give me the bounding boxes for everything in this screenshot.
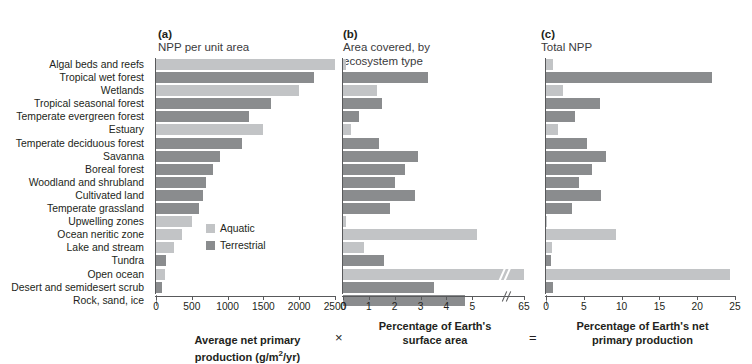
bar-a bbox=[156, 111, 249, 122]
axis-tick bbox=[395, 296, 396, 300]
bar-row bbox=[546, 281, 735, 294]
bar-row bbox=[343, 241, 524, 254]
bar-b bbox=[343, 216, 346, 227]
bar-b bbox=[343, 229, 477, 240]
category-label: Rock, sand, ice bbox=[0, 294, 148, 307]
bar-row bbox=[546, 215, 735, 228]
bar-b bbox=[343, 151, 418, 162]
panel-c-bars bbox=[546, 58, 735, 294]
legend: AquaticTerrestrial bbox=[206, 221, 266, 255]
category-label: Desert and semidesert scrub bbox=[0, 281, 148, 294]
bar-row bbox=[343, 97, 524, 110]
bar-row bbox=[156, 254, 335, 267]
panel-a-plot bbox=[155, 58, 335, 294]
axis-tick-label: 1000 bbox=[216, 301, 239, 312]
legend-item: Aquatic bbox=[206, 221, 266, 235]
bar-row bbox=[343, 189, 524, 202]
bar-c bbox=[546, 59, 553, 70]
bar-a bbox=[156, 177, 206, 188]
bar-row bbox=[546, 163, 735, 176]
category-label: Lake and stream bbox=[0, 241, 148, 254]
axis-tick-label: 5 bbox=[581, 301, 587, 312]
axis-tick bbox=[299, 296, 300, 300]
axis-tick bbox=[192, 296, 193, 300]
bar-a bbox=[156, 59, 335, 70]
category-label: Boreal forest bbox=[0, 163, 148, 176]
panel-c-title-text: Total NPP bbox=[541, 41, 592, 53]
bar-row bbox=[343, 150, 524, 163]
axis-break-icon bbox=[501, 291, 515, 302]
axis-tick-label: 10 bbox=[616, 301, 627, 312]
bar-b bbox=[343, 177, 395, 188]
bar-a bbox=[156, 98, 271, 109]
bar-row bbox=[156, 123, 335, 136]
bar-row bbox=[343, 268, 524, 281]
axis-tick bbox=[584, 296, 585, 300]
bar-row bbox=[156, 97, 335, 110]
bar-row bbox=[156, 137, 335, 150]
bar-row bbox=[343, 215, 524, 228]
bar-row bbox=[156, 71, 335, 84]
bar-b bbox=[343, 242, 364, 253]
bar-row bbox=[546, 176, 735, 189]
bar-b bbox=[343, 190, 415, 201]
bar-a bbox=[156, 203, 199, 214]
axis-tick-label: 15 bbox=[654, 301, 665, 312]
bar-row bbox=[343, 176, 524, 189]
axis-tick bbox=[697, 296, 698, 300]
panel-a-tag: (a) bbox=[158, 28, 172, 40]
panel-c-tag: (c) bbox=[541, 28, 555, 40]
bar-a bbox=[156, 269, 165, 280]
axis-tick bbox=[622, 296, 623, 300]
category-label: Woodland and shrubland bbox=[0, 176, 148, 189]
category-label: Tundra bbox=[0, 254, 148, 267]
category-label: Algal beds and reefs bbox=[0, 58, 148, 71]
axis-tick-label: 65 bbox=[518, 301, 529, 312]
bar-row bbox=[546, 71, 735, 84]
axis-tick-label: 0 bbox=[543, 301, 549, 312]
bar-c bbox=[546, 124, 558, 135]
bar-row bbox=[343, 110, 524, 123]
axis-tick bbox=[546, 296, 547, 300]
bar-row bbox=[156, 281, 335, 294]
bar-row bbox=[343, 71, 524, 84]
axis-tick-label: 20 bbox=[692, 301, 703, 312]
panel-c-axis-caption: Percentage of Earth's net primary produc… bbox=[550, 320, 735, 347]
axis-tick-label: 2000 bbox=[288, 301, 311, 312]
bar-row bbox=[343, 228, 524, 241]
bar-c bbox=[546, 216, 547, 227]
bar-row bbox=[156, 189, 335, 202]
category-label: Tropical wet forest bbox=[0, 71, 148, 84]
legend-label: Terrestrial bbox=[220, 240, 266, 251]
legend-swatch-aquatic bbox=[206, 224, 215, 233]
legend-item: Terrestrial bbox=[206, 238, 266, 252]
axis-tick bbox=[524, 296, 525, 300]
axis-tick-label: 1 bbox=[366, 301, 372, 312]
bar-a bbox=[156, 124, 263, 135]
category-label-list: Algal beds and reefsTropical wet forestW… bbox=[0, 58, 148, 307]
bar-b bbox=[343, 203, 390, 214]
bar-a bbox=[156, 242, 174, 253]
bar-c bbox=[546, 85, 563, 96]
bar-row bbox=[156, 58, 335, 71]
bar-a bbox=[156, 164, 213, 175]
panel-b-tag: (b) bbox=[343, 28, 358, 40]
axis-tick-label: 3 bbox=[418, 301, 424, 312]
bar-row bbox=[156, 176, 335, 189]
bar-a bbox=[156, 151, 220, 162]
panel-a-title: (a) NPP per unit area bbox=[158, 14, 328, 55]
bar-row bbox=[546, 58, 735, 71]
bar-row bbox=[156, 202, 335, 215]
category-label: Temperate deciduous forest bbox=[0, 137, 148, 150]
category-label: Temperate grassland bbox=[0, 202, 148, 215]
bar-a bbox=[156, 138, 242, 149]
bar-row bbox=[546, 189, 735, 202]
multiply-operator: × bbox=[335, 330, 343, 345]
bar-c bbox=[546, 138, 587, 149]
category-label: Ocean neritic zone bbox=[0, 228, 148, 241]
bar-c bbox=[546, 203, 572, 214]
axis-tick-label: 25 bbox=[729, 301, 740, 312]
bar-row bbox=[546, 202, 735, 215]
bar-row bbox=[546, 228, 735, 241]
